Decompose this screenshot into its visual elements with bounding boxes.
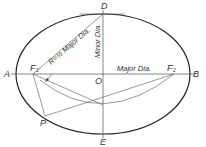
label-b: B (193, 69, 199, 79)
label-o: O (95, 76, 102, 86)
label-d: D (101, 1, 108, 11)
label-f1-sub: 1 (36, 67, 39, 73)
focal-line-f1 (33, 74, 45, 116)
focal-line-f1-cross (33, 74, 103, 105)
label-major-dia: Major Dia. (117, 64, 151, 73)
label-a: A (3, 69, 10, 79)
construction-arc (40, 74, 174, 104)
label-radius: R=½ Major Dia. (46, 25, 91, 66)
label-f2-sub: 2 (172, 67, 176, 73)
label-e: E (100, 137, 107, 147)
ellipse-diagram: D E A B O P F 1 F 2 Major Dia. Minor Dia… (0, 0, 206, 147)
label-p: P (40, 118, 46, 128)
label-minor-dia: Minor Dia. (93, 24, 102, 58)
